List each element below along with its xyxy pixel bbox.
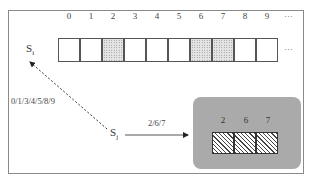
subset-index-label: 7 (257, 115, 279, 125)
dashed-arrow-icon (30, 62, 107, 129)
subset-cell-7 (256, 132, 278, 154)
subset-index-label: 2 (212, 115, 234, 125)
subset-cell-2 (212, 132, 234, 154)
subset-cell-6 (234, 132, 256, 154)
subset-index-label: 6 (235, 115, 257, 125)
